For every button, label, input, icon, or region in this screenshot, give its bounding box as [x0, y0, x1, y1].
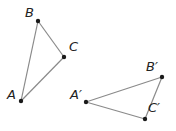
label-b-prime: B′: [146, 60, 158, 73]
point-c: [62, 55, 66, 59]
label-a: A: [7, 88, 16, 101]
edge-c1a1: [86, 102, 145, 119]
triangle-abc: [19, 19, 66, 103]
edge-ca: [21, 57, 64, 101]
point-b-prime: [160, 75, 164, 79]
label-c: C: [69, 40, 78, 53]
edge-a1b1: [86, 77, 162, 102]
point-a: [19, 99, 23, 103]
label-c-prime: C′: [148, 101, 160, 114]
label-a-prime: A′: [70, 88, 82, 101]
edge-bc: [38, 21, 64, 57]
triangle-diagram: A B C A′ B′ C′: [0, 0, 176, 131]
edge-ab: [21, 21, 38, 101]
point-a-prime: [84, 100, 88, 104]
point-c-prime: [143, 117, 147, 121]
label-b: B: [25, 6, 34, 19]
point-b: [36, 19, 40, 23]
